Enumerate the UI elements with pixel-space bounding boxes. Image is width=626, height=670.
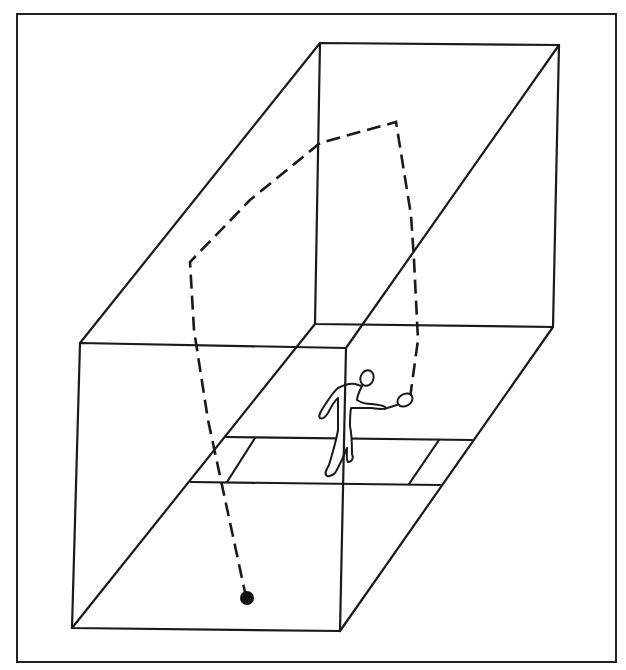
right-service-box-line bbox=[409, 440, 439, 484]
ball-icon bbox=[240, 591, 254, 605]
back-wall bbox=[315, 43, 559, 327]
ball-trajectory bbox=[190, 122, 418, 597]
ceiling-left-edge bbox=[80, 43, 320, 343]
racquetball-diagram: Racquetball court — ceiling ball shot tr… bbox=[0, 0, 626, 670]
player-figure-icon bbox=[319, 368, 415, 476]
floor-left-edge bbox=[72, 324, 315, 628]
front-wall-outline bbox=[72, 343, 346, 631]
outer-frame bbox=[17, 14, 616, 662]
diagram-canvas bbox=[0, 0, 626, 670]
left-service-box-line bbox=[227, 438, 255, 482]
ceiling-right-edge bbox=[346, 45, 559, 348]
service-line bbox=[191, 482, 440, 485]
